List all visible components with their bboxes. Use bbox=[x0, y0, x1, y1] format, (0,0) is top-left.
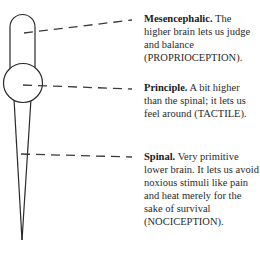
spinal-title: Spinal. bbox=[144, 151, 175, 162]
spinal-cone-shape bbox=[14, 99, 31, 240]
principle-title: Principle. bbox=[144, 82, 187, 93]
spinal-description: Very primitive lower brain. It lets us a… bbox=[144, 151, 259, 227]
principle-circle-shape bbox=[4, 64, 43, 103]
spinal-label: Spinal. Very primitive lower brain. It l… bbox=[144, 150, 260, 228]
mesencephalic-title: Mesencephalic. bbox=[144, 13, 213, 24]
principle-label: Principle. A bit higher than the spinal;… bbox=[144, 81, 260, 120]
mesencephalic-leader-line bbox=[24, 20, 132, 33]
spinal-leader-line bbox=[21, 154, 132, 157]
mesencephalic-label: Mesencephalic. The higher brain lets us … bbox=[144, 12, 260, 64]
